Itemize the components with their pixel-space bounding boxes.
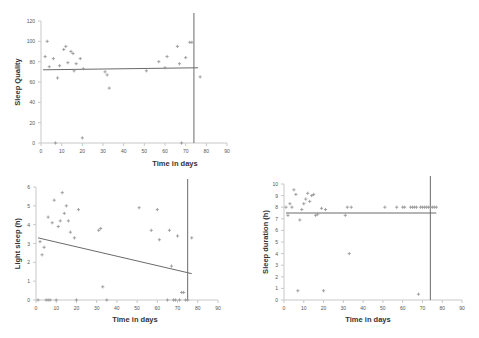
y-tick-label: 3 [275,262,278,268]
y-axis-label: Light sleep (h) [13,217,22,269]
data-point [304,197,307,200]
y-tick-label: 5 [27,203,30,209]
y-tick-label: 3 [27,241,30,247]
y-tick-label: 1 [27,278,30,284]
data-point [348,252,351,255]
x-tick-label: 10 [301,305,307,311]
data-point [56,76,59,79]
data-point [168,229,171,232]
data-point [71,52,74,55]
y-tick-label: 4 [27,222,30,228]
y-tick-label: 4 [275,251,278,257]
data-point [108,87,111,90]
y-tick-label: 8 [275,204,278,210]
data-point [67,219,70,222]
x-tick-label: 40 [114,305,120,311]
x-tick-label: 90 [459,305,465,311]
y-tick-label: 0 [27,297,30,303]
sleep-duration-plot: 0123456789100102030405060708090Time in d… [240,175,479,338]
trendline [38,238,192,274]
data-point [306,192,309,195]
x-axis-label: Time in days [152,159,197,168]
data-point [163,66,166,69]
data-point [178,62,181,65]
data-point [346,206,349,209]
y-tick-label: 120 [27,18,36,24]
data-point [199,75,202,78]
x-tick-label: 90 [224,148,230,154]
data-point [69,50,72,53]
x-tick-label: 20 [74,305,80,311]
data-point [383,206,386,209]
data-point [46,40,49,43]
y-tick-label: 2 [27,259,30,265]
chart-light-sleep: 01234560102030405060708090Time in daysLi… [0,175,240,338]
data-point [48,65,51,68]
data-point [101,285,104,288]
x-tick-label: 40 [121,148,127,154]
data-point [288,202,291,205]
data-point [62,48,65,51]
y-tick-label: 0 [275,297,278,303]
data-point [350,206,353,209]
data-point [69,231,72,234]
data-point [77,208,80,211]
y-tick-label: 1 [275,285,278,291]
data-point [57,225,60,228]
data-point [54,141,57,144]
y-tick-label: 100 [27,38,36,44]
data-point [97,229,100,232]
x-tick-label: 80 [195,305,201,311]
data-point [284,206,287,209]
data-point [395,206,398,209]
data-point [174,298,177,301]
x-tick-label: 70 [420,305,426,311]
x-tick-label: 50 [134,305,140,311]
data-point [44,55,47,58]
data-point [106,73,109,76]
data-point [138,206,141,209]
data-point [302,202,305,205]
data-point [58,64,61,67]
x-tick-label: 0 [35,305,38,311]
x-tick-label: 10 [53,305,59,311]
data-point [180,141,183,144]
x-tick-label: 0 [40,148,43,154]
data-point [75,298,78,301]
data-point [156,208,159,211]
data-point [145,69,148,72]
chart-sleep-duration: 0123456789100102030405060708090Time in d… [240,175,479,338]
data-point [38,240,41,243]
x-tick-label: 60 [155,305,161,311]
chart-sleep-quality: 0204060801001200102030405060708090Time i… [0,0,260,175]
data-point [79,57,82,60]
data-point [63,212,66,215]
y-tick-label: 10 [272,181,278,187]
data-point [65,204,68,207]
y-tick-label: 0 [32,140,35,146]
data-point [55,298,58,301]
data-point [324,208,327,211]
trendline [43,68,198,70]
data-point [64,45,67,48]
x-tick-label: 30 [94,305,100,311]
y-tick-label: 9 [275,193,278,199]
y-tick-label: 40 [29,99,35,105]
sleep-quality-plot: 0204060801001200102030405060708090Time i… [0,0,260,175]
data-point [182,291,185,294]
data-point [320,207,323,210]
x-tick-label: 80 [204,148,210,154]
data-point [176,234,179,237]
data-point [47,216,50,219]
y-axis-label: Sleep duration (h) [261,210,270,274]
x-tick-label: 10 [59,148,65,154]
x-tick-label: 30 [341,305,347,311]
data-point [415,206,418,209]
y-tick-label: 80 [29,59,35,65]
data-point [75,62,78,65]
data-point [157,60,160,63]
data-point [292,188,295,191]
x-tick-label: 60 [400,305,406,311]
data-point [296,289,299,292]
data-point [66,61,69,64]
